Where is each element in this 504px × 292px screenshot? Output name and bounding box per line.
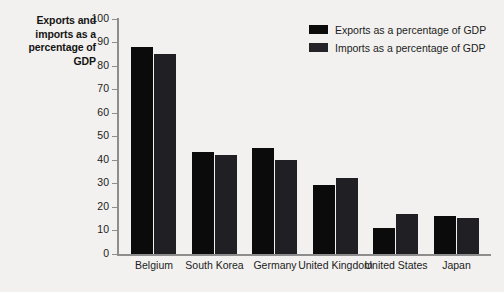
y-axis-tick-label: 30 — [97, 176, 109, 188]
imports-swatch — [309, 43, 328, 52]
y-axis-tick-label: 70 — [97, 82, 109, 94]
legend-item-label: Imports as a percentage of GDP — [335, 42, 486, 54]
y-axis-tick-label: 90 — [97, 35, 109, 47]
bar-exports — [313, 185, 335, 253]
y-axis-title: Exports and imports as a percentage of G… — [4, 14, 96, 68]
y-axis-tick-mark — [112, 160, 117, 161]
y-axis-tick-label: 80 — [97, 59, 109, 71]
y-axis-tick-mark — [112, 207, 117, 208]
y-axis-tick-mark — [112, 183, 117, 184]
y-axis-tick-mark — [112, 254, 117, 255]
y-axis-tick-label: 10 — [97, 223, 109, 235]
bar-imports — [275, 160, 297, 254]
y-axis-tick-mark — [112, 113, 117, 114]
legend-item: Imports as a percentage of GDP — [309, 40, 486, 55]
y-axis-tick-mark — [112, 19, 117, 20]
exports-swatch — [309, 25, 328, 34]
bar-exports — [434, 216, 456, 254]
bar-imports — [336, 178, 358, 253]
y-axis-tick-label: 60 — [97, 106, 109, 118]
y-axis-tick-mark — [112, 136, 117, 137]
bar-exports — [252, 148, 274, 254]
y-axis-tick-label: 50 — [97, 129, 109, 141]
y-axis-tick-mark — [112, 89, 117, 90]
chart-legend: Exports as a percentage of GDPImports as… — [309, 22, 486, 58]
y-axis-tick-label: 20 — [97, 200, 109, 212]
y-axis-tick-label: 100 — [91, 12, 109, 24]
bar-imports — [396, 214, 418, 254]
y-axis-tick-mark — [112, 42, 117, 43]
y-axis-line — [117, 18, 119, 255]
bar-exports — [373, 228, 395, 254]
y-axis-tick-mark — [112, 66, 117, 67]
legend-item-label: Exports as a percentage of GDP — [335, 24, 486, 36]
bar-chart-figure: Exports and imports as a percentage of G… — [0, 0, 504, 292]
legend-item: Exports as a percentage of GDP — [309, 22, 486, 37]
x-axis-category-label: Japan — [412, 259, 502, 272]
y-axis-tick-label: 0 — [103, 247, 109, 259]
y-axis-tick-mark — [112, 230, 117, 231]
bar-imports — [457, 218, 479, 253]
bar-imports — [215, 155, 237, 254]
bar-exports — [131, 47, 153, 254]
bar-imports — [154, 54, 176, 254]
y-axis-tick-label: 40 — [97, 153, 109, 165]
bar-exports — [192, 152, 214, 253]
x-axis-line — [117, 254, 491, 256]
